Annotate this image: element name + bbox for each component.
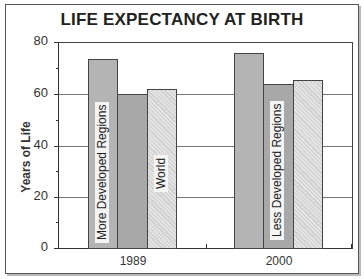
y-tick-label-0: 0 (8, 239, 48, 254)
chart-title: LIFE EXPECTANCY AT BIRTH (0, 10, 364, 30)
y-tick (54, 42, 59, 43)
y-tick-label-60: 60 (8, 85, 48, 100)
x-tick (351, 244, 352, 249)
x-tick (206, 244, 207, 249)
y-minor-tick (56, 171, 59, 172)
x-label-2000: 2000 (249, 254, 309, 268)
x-label-1989: 1989 (103, 254, 163, 268)
y-tick (54, 94, 59, 95)
bar-2000-world (293, 80, 323, 249)
label-world: World (154, 155, 168, 192)
bar-1989-less-developed (117, 94, 148, 249)
y-minor-tick (56, 120, 59, 121)
y-axis-title: Years of Life (19, 117, 33, 197)
y-tick-label-80: 80 (8, 33, 48, 48)
bar-2000-more-developed (234, 53, 264, 249)
label-more-developed: More Developed Regions (95, 102, 109, 243)
y-tick (54, 146, 59, 147)
y-minor-tick (56, 68, 59, 69)
y-minor-tick (56, 222, 59, 223)
y-tick (54, 248, 59, 249)
y-tick (54, 197, 59, 198)
label-less-developed: Less Developed Regions (270, 101, 284, 240)
